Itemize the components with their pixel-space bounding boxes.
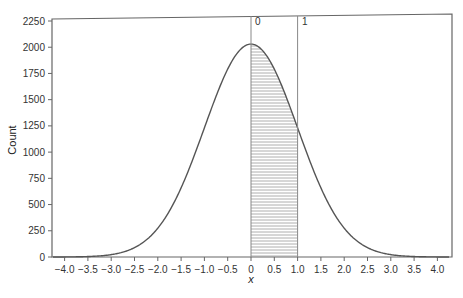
- y-tick-label: 2000: [23, 42, 46, 53]
- plot-frame: [52, 14, 452, 257]
- x-axis-title: x: [247, 273, 254, 285]
- normal-curve-chart: 0250500750100012501500175020002250 −4.0−…: [0, 0, 463, 298]
- y-tick-label: 0: [39, 252, 45, 263]
- x-tick-label: −0.5: [218, 264, 238, 275]
- x-tick-label: −3.0: [101, 264, 121, 275]
- y-tick-label: 500: [28, 199, 45, 210]
- x-tick-label: 1.5: [314, 264, 328, 275]
- marker-label-0: 0: [255, 16, 261, 27]
- y-tick-label: 1500: [23, 94, 46, 105]
- x-tick-label: −1.0: [195, 264, 215, 275]
- y-tick-label: 1250: [23, 120, 46, 131]
- x-tick-label: 0.5: [267, 264, 281, 275]
- x-tick-label: −2.5: [125, 264, 145, 275]
- y-axis-title: Count: [6, 125, 18, 154]
- x-tick-label: 4.0: [430, 264, 444, 275]
- x-tick-label: 3.5: [407, 264, 421, 275]
- x-tick-label: −2.0: [148, 264, 168, 275]
- x-tick-label: 3.0: [384, 264, 398, 275]
- x-tick-label: −3.5: [78, 264, 98, 275]
- shaded-region-0-to-1: [251, 43, 298, 256]
- y-tick-label: 1750: [23, 68, 46, 79]
- y-axis: 0250500750100012501500175020002250: [23, 16, 52, 263]
- x-tick-label: 1.0: [291, 264, 305, 275]
- y-tick-label: 750: [28, 173, 45, 184]
- y-tick-label: 250: [28, 225, 45, 236]
- marker-label-1: 1: [302, 16, 308, 27]
- y-tick-label: 2250: [23, 16, 46, 27]
- y-tick-label: 1000: [23, 147, 46, 158]
- x-tick-label: 2.5: [361, 264, 375, 275]
- x-tick-label: 2.0: [337, 264, 351, 275]
- x-tick-label: −4.0: [55, 264, 75, 275]
- x-tick-label: −1.5: [171, 264, 191, 275]
